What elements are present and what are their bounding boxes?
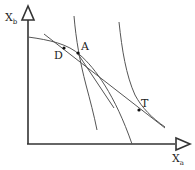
x-axis-label: Xa xyxy=(172,152,184,167)
diagram-canvas: Xb Xa D A T xyxy=(0,0,195,170)
label-t: T xyxy=(141,97,149,110)
steep-line-a xyxy=(78,54,114,108)
y-axis-label: Xb xyxy=(5,11,18,26)
x-axis-arrow-icon xyxy=(176,138,190,150)
indifference-curve-t xyxy=(119,22,165,127)
label-d: D xyxy=(54,49,63,62)
y-axis-arrow-icon xyxy=(22,6,34,20)
point-a xyxy=(76,51,79,54)
label-a: A xyxy=(80,40,90,53)
point-d xyxy=(62,46,65,49)
